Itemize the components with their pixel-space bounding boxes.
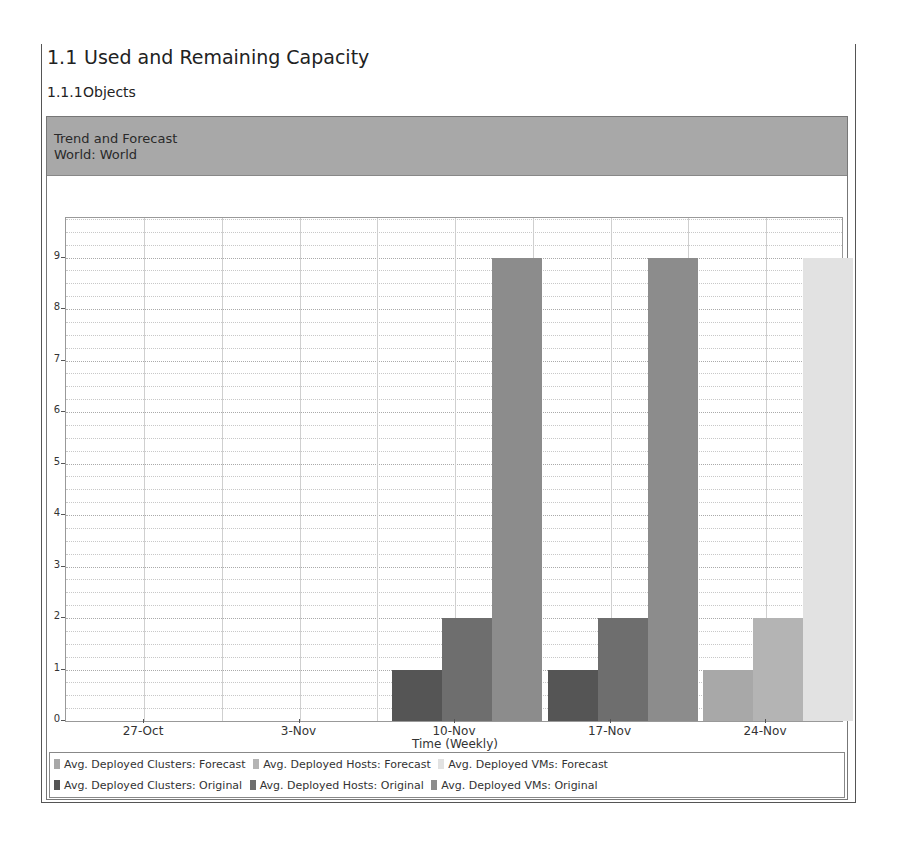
gridline [66,425,842,426]
subsection-title: Objects [83,84,136,100]
gridline [66,322,842,323]
legend-row-forecast: Avg. Deployed Clusters: Forecast Avg. De… [54,758,612,771]
y-tick-mark [61,514,65,515]
gridline [66,451,842,452]
bar [703,670,753,722]
legend-item-vms-forecast: Avg. Deployed VMs: Forecast [438,758,608,771]
gridline [66,605,842,606]
bar [392,670,442,722]
bar [803,258,853,722]
panel-header: Trend and Forecast World: World [47,117,847,176]
legend: Avg. Deployed Clusters: Forecast Avg. De… [49,752,845,798]
x-tick-label: 24-Nov [743,724,786,738]
gridline [300,218,301,721]
x-tick-mark [143,719,144,723]
gridline [66,502,842,503]
gridline [66,412,842,413]
gridline [66,567,842,568]
x-tick-label: 17-Nov [588,724,631,738]
bar [648,258,698,722]
swatch-icon [54,759,60,769]
legend-item-clusters-forecast: Avg. Deployed Clusters: Forecast [54,758,246,771]
gridline [66,386,842,387]
y-tick-label: 2 [44,610,60,621]
x-tick-mark [610,719,611,723]
gridline [66,335,842,336]
y-tick-label: 3 [44,559,60,570]
legend-item-vms-original: Avg. Deployed VMs: Original [431,779,597,792]
gridline [66,348,842,349]
y-tick-label: 4 [44,507,60,518]
y-tick-label: 5 [44,456,60,467]
gridline [66,258,842,259]
swatch-icon [250,780,256,790]
x-tick-label: 27-Oct [123,724,164,738]
gridline [66,219,842,220]
gridline [66,554,842,555]
x-tick-label: 3-Nov [281,724,316,738]
legend-item-clusters-original: Avg. Deployed Clusters: Original [54,779,242,792]
y-tick-mark [61,617,65,618]
y-tick-mark [61,463,65,464]
y-tick-label: 0 [44,713,60,724]
gridline [66,309,842,310]
gridline [66,270,842,271]
bar [442,618,492,721]
gridline [66,528,842,529]
swatch-icon [438,759,444,769]
gridline [66,489,842,490]
gridline [66,245,842,246]
gridline [377,218,378,721]
gridline [66,296,842,297]
legend-item-hosts-forecast: Avg. Deployed Hosts: Forecast [253,758,431,771]
gridline [66,361,842,362]
panel-title: Trend and Forecast [54,131,177,146]
gridline [66,592,842,593]
y-tick-mark [61,720,65,721]
gridline [66,283,842,284]
x-tick-mark [454,719,455,723]
y-tick-label: 7 [44,353,60,364]
panel-subtitle: World: World [54,147,137,162]
legend-row-original: Avg. Deployed Clusters: Original Avg. De… [54,779,601,792]
y-tick-label: 1 [44,662,60,673]
bar [548,670,598,722]
y-tick-label: 9 [44,250,60,261]
y-tick-mark [61,669,65,670]
section-title: Used and Remaining Capacity [84,46,369,68]
y-tick-mark [61,360,65,361]
y-tick-label: 8 [44,301,60,312]
gridline [66,579,842,580]
x-tick-mark [765,719,766,723]
y-tick-mark [61,257,65,258]
y-tick-label: 6 [44,404,60,415]
legend-item-hosts-original: Avg. Deployed Hosts: Original [250,779,424,792]
gridline [66,515,842,516]
plot-area [65,217,843,722]
gridline [66,541,842,542]
swatch-icon [253,759,259,769]
gridline [66,464,842,465]
section-number: 1.1 [47,46,84,68]
section-heading: 1.1Used and Remaining Capacity [47,46,369,68]
swatch-icon [431,780,437,790]
gridline [66,399,842,400]
gridline [144,218,145,721]
y-tick-mark [61,308,65,309]
x-tick-label: 10-Nov [432,724,475,738]
gridline [222,218,223,721]
y-tick-mark [61,566,65,567]
gridline [66,438,842,439]
gridline [66,476,842,477]
gridline [66,373,842,374]
subsection-heading: 1.1.1Objects [47,84,136,100]
bar [492,258,542,722]
bar [598,618,648,721]
gridline [66,232,842,233]
x-axis-label: Time (Weekly) [412,737,498,751]
subsection-number: 1.1.1 [47,84,83,100]
swatch-icon [54,780,60,790]
bar [753,618,803,721]
y-tick-mark [61,411,65,412]
x-tick-mark [299,719,300,723]
